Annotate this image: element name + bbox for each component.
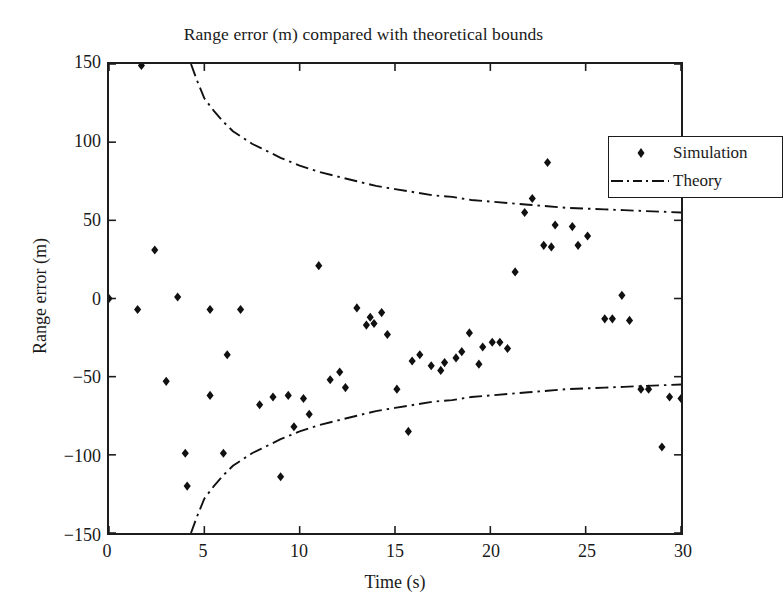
scatter-point	[206, 391, 213, 400]
scatter-point	[552, 220, 559, 229]
scatter-point	[327, 375, 334, 384]
scatter-point	[306, 410, 313, 419]
chart-title: Range error (m) compared with theoretica…	[0, 24, 727, 45]
scatter-point	[584, 231, 591, 240]
scatter-point	[441, 358, 448, 367]
theory-curves	[191, 64, 681, 533]
scatter-point	[109, 294, 113, 303]
diamond-marker-icon	[609, 139, 673, 167]
scatter-point	[437, 366, 444, 375]
scatter-point	[658, 442, 665, 451]
y-tick-label: 150	[37, 53, 101, 71]
x-axis-label: Time (s)	[107, 572, 683, 593]
scatter-point	[363, 321, 370, 330]
scatter-point	[466, 328, 473, 337]
x-tick-label: 5	[173, 541, 233, 561]
scatter-point	[277, 472, 284, 481]
x-axis-tick-labels: 051015202530	[107, 541, 683, 567]
y-tick-label: −100	[37, 447, 101, 465]
y-axis-label-wrapper: Range error (m)	[30, 166, 56, 426]
scatter-point	[512, 267, 519, 276]
scatter-point	[504, 344, 511, 353]
scatter-point	[637, 385, 644, 394]
scatter-point	[300, 394, 307, 403]
legend-item-simulation[interactable]: Simulation	[609, 139, 782, 167]
x-tick-label: 0	[77, 541, 137, 561]
scatter-point	[475, 360, 482, 369]
scatter-point	[138, 64, 145, 70]
scatter-point	[336, 367, 343, 376]
scatter-point	[378, 308, 385, 317]
scatter-point	[220, 449, 227, 458]
scatter-point	[353, 303, 360, 312]
scatter-point	[544, 158, 551, 167]
x-tick-label: 15	[365, 541, 425, 561]
x-tick-label: 20	[461, 541, 521, 561]
scatter-point	[521, 208, 528, 217]
scatter-point	[151, 245, 158, 254]
scatter-point	[370, 319, 377, 328]
scatter-point	[416, 350, 423, 359]
scatter-point	[367, 313, 374, 322]
scatter-point	[393, 385, 400, 394]
legend-item-theory[interactable]: Theory	[609, 167, 782, 195]
scatter-point	[479, 342, 486, 351]
plot-area: Simulation Theory	[107, 62, 683, 535]
scatter-point	[384, 330, 391, 339]
scatter-point	[618, 291, 625, 300]
legend-label-theory: Theory	[673, 171, 722, 191]
scatter-point	[174, 292, 181, 301]
scatter-point	[548, 242, 555, 251]
scatter-point	[405, 427, 412, 436]
scatter-point	[428, 361, 435, 370]
scatter-point	[409, 356, 416, 365]
scatter-point	[224, 350, 231, 359]
scatter-point	[601, 314, 608, 323]
x-tick-label: 25	[557, 541, 617, 561]
scatter-point	[569, 222, 576, 231]
scatter-point	[206, 305, 213, 314]
scatter-point	[182, 449, 189, 458]
scatter-point	[290, 422, 297, 431]
scatter-point	[163, 377, 170, 386]
y-axis-label: Range error (m)	[30, 166, 51, 426]
axis-ticks	[109, 64, 681, 533]
legend-label-simulation: Simulation	[673, 143, 748, 163]
scatter-point	[458, 347, 465, 356]
scatter-point	[269, 392, 276, 401]
scatter-point	[489, 338, 496, 347]
dash-dot-line-icon	[609, 167, 673, 195]
scatter-point	[256, 400, 263, 409]
scatter-point	[666, 392, 673, 401]
plot-svg	[109, 64, 681, 533]
scatter-point	[529, 194, 536, 203]
x-tick-label: 30	[653, 541, 713, 561]
scatter-point	[609, 314, 616, 323]
scatter-point	[315, 261, 322, 270]
scatter-point	[677, 394, 681, 403]
x-tick-label: 10	[269, 541, 329, 561]
scatter-point	[184, 482, 191, 491]
scatter-point	[285, 391, 292, 400]
scatter-point	[237, 305, 244, 314]
y-tick-label: 100	[37, 132, 101, 150]
simulation-points	[109, 64, 681, 491]
legend-box[interactable]: Simulation Theory	[608, 136, 783, 198]
scatter-point	[452, 353, 459, 362]
scatter-point	[134, 305, 141, 314]
scatter-point	[496, 338, 503, 347]
scatter-point	[540, 241, 547, 250]
scatter-point	[342, 383, 349, 392]
scatter-point	[626, 316, 633, 325]
scatter-point	[574, 241, 581, 250]
